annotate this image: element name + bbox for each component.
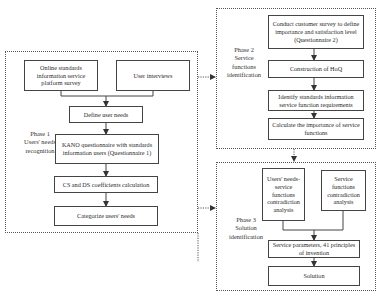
box-functions-contradiction: Service functions contradiction analysis — [321, 170, 366, 211]
phase2-label-line: identification — [220, 71, 268, 79]
phase3-label-line: identification — [224, 233, 268, 241]
box-define-needs: Define user needs — [69, 106, 143, 123]
phase2-label-line: Phase 2 — [220, 46, 268, 54]
box-solution: Solution — [268, 266, 360, 286]
phase2-label: Phase 2 Service functions identification — [220, 46, 268, 79]
box-kano: KANO questionnaire with standards inform… — [55, 134, 159, 164]
box-service-params: Service parameters, 41 principles of inv… — [268, 240, 360, 258]
box-online-survey: Online standards information service pla… — [24, 60, 98, 91]
box-identify-reqs: Identify standards information service f… — [268, 90, 364, 111]
phase2-label-line: Service — [220, 54, 268, 62]
box-needs-contradiction: Users' needs-service functions contradic… — [262, 168, 305, 221]
box-customer-survey: Conduct customer survey to define import… — [268, 15, 364, 49]
phase2-label-line: functions — [220, 63, 268, 71]
box-categorize: Categorize users' needs — [54, 206, 158, 226]
box-cs-ds: CS and DS coefficients calculation — [54, 176, 158, 193]
box-user-interviews: User interviews — [116, 60, 190, 91]
phase3-label-line: Solution — [224, 224, 268, 232]
box-calc-importance: Calculate the importance of service func… — [268, 118, 364, 140]
box-hoq: Construction of HoQ — [268, 60, 364, 78]
